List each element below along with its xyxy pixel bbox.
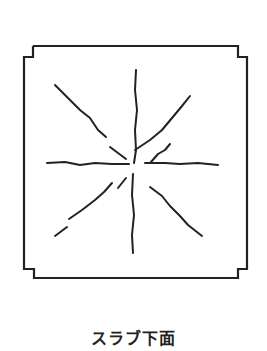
crack-vertical-bottom [132, 174, 134, 253]
diagram-caption: スラブ下面 [0, 325, 267, 349]
crack-diagonal-lower-right [150, 187, 202, 236]
crack-diagonal-upper-left-a [55, 85, 106, 137]
crack-diagonal-lower-left-c [118, 178, 126, 188]
slab-crack-diagram [0, 0, 267, 351]
crack-diagonal-lower-left-b [69, 183, 112, 219]
crack-diagonal-upper-right [135, 96, 190, 150]
crack-diagonal-lower-left-a [55, 227, 67, 236]
crack-horizontal-left [47, 162, 129, 165]
crack-horizontal-right [145, 163, 218, 165]
crack-lines [47, 70, 218, 253]
crack-diagonal-upper-left-b [110, 147, 126, 159]
crack-branch-right [151, 144, 170, 162]
